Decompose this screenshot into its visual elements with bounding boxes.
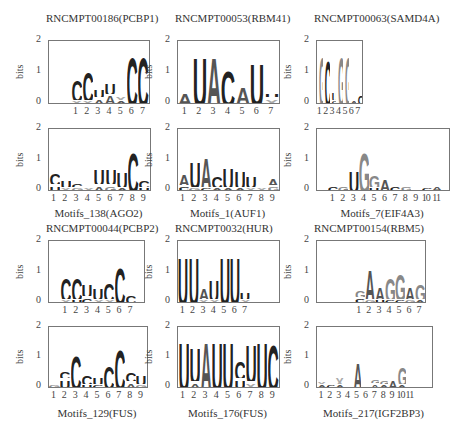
- position-stack: C: [128, 144, 139, 190]
- x-tick-label: 2: [187, 304, 197, 315]
- position-stack: C: [356, 94, 362, 103]
- letter-c: C: [234, 357, 245, 378]
- letter-g: G: [401, 185, 411, 190]
- position-stack: G: [343, 47, 349, 103]
- letter-x: X: [245, 187, 256, 190]
- position-stack: AU: [234, 166, 245, 190]
- position-stack: U: [250, 53, 264, 103]
- x-tick-labels: 1234567891011: [316, 389, 414, 400]
- position-stack: C: [115, 259, 126, 302]
- letter-u: U: [136, 372, 147, 384]
- letter-a: A: [365, 262, 375, 299]
- x-tick-label: 2: [59, 389, 70, 400]
- letter-g: G: [370, 377, 379, 383]
- x-tick-label: 5: [394, 304, 404, 315]
- letter-c: C: [82, 296, 93, 302]
- panel-title: RNCMPT00063(SAMD4A): [314, 12, 439, 24]
- position-stack: AU: [104, 81, 115, 103]
- y-axis-label: bits: [14, 152, 25, 166]
- letter-u: U: [250, 53, 264, 103]
- x-tick-label: 2: [325, 389, 334, 400]
- logo-plot-area: AXCAXCACAGAGAAGX: [316, 326, 433, 388]
- position-stack: XC: [71, 75, 82, 103]
- y-tick-label: 0: [36, 294, 41, 305]
- y-tick-label: 2: [304, 121, 309, 132]
- x-tick-label: 8: [127, 192, 138, 203]
- position-stack: A: [178, 91, 192, 103]
- panel-title: RNCMPT00186(PCBP1): [46, 12, 158, 24]
- position-stack: C: [390, 184, 400, 190]
- letter-u: U: [189, 156, 200, 187]
- y-axis-label: bits: [143, 350, 154, 364]
- letter-a: A: [375, 284, 385, 299]
- letter-x: X: [265, 97, 279, 103]
- position-stack: XU: [60, 178, 71, 190]
- letter-u: U: [178, 247, 188, 302]
- position-stack: XC: [104, 278, 115, 302]
- x-tick-label: 5: [222, 389, 233, 400]
- position-stack: G: [359, 144, 369, 190]
- letter-g: G: [355, 288, 365, 297]
- position-stack: CA: [178, 173, 189, 190]
- position-stack: UC: [49, 172, 60, 190]
- x-tick-label: 9: [138, 192, 149, 203]
- letter-a: A: [415, 299, 425, 302]
- x-tick-label: 1: [354, 304, 364, 315]
- position-stack: UG: [369, 172, 379, 190]
- x-tick-labels: 1234567891011: [327, 192, 442, 203]
- position-stack: UC: [71, 272, 82, 302]
- panel-title: RNCMPT00154(RBM5): [314, 222, 424, 234]
- x-tick-label: 11: [405, 389, 414, 400]
- x-tick-label: 6: [229, 304, 239, 315]
- letter-g: G: [338, 184, 348, 190]
- x-tick-label: 1: [327, 192, 337, 203]
- x-tick-label: 1: [59, 304, 70, 315]
- position-stack: XU: [209, 275, 219, 302]
- position-stack: U: [192, 47, 206, 103]
- letter-c: C: [355, 297, 365, 302]
- letter-x: X: [93, 299, 104, 302]
- x-tick-label: 6: [379, 192, 389, 203]
- y-tick-label: 1: [304, 349, 309, 360]
- y-tick-label: 2: [36, 121, 41, 132]
- letter-u: U: [189, 339, 200, 381]
- letter-u: U: [245, 175, 256, 187]
- y-axis-label: bits: [143, 65, 154, 79]
- letter-c: C: [344, 386, 353, 388]
- y-tick-label: 2: [36, 33, 41, 44]
- x-tick-labels: 1234567: [316, 105, 361, 116]
- position-stack: UC: [139, 178, 150, 190]
- x-tick-label: 3: [70, 389, 81, 400]
- letter-u: U: [230, 247, 240, 302]
- logo-plot-area: AUACAUXU: [177, 40, 280, 104]
- position-stack: G: [401, 185, 411, 190]
- y-tick-label: 1: [165, 349, 170, 360]
- letter-x: X: [116, 94, 127, 100]
- y-axis-label: bits: [14, 350, 25, 364]
- x-tick-label: 5: [368, 192, 378, 203]
- letter-g: G: [189, 187, 200, 190]
- letter-c: C: [60, 369, 71, 378]
- y-axis-label: bits: [282, 152, 293, 166]
- x-tick-label: 2: [364, 304, 374, 315]
- x-tick-label: 7: [355, 105, 361, 116]
- x-tick-label: 7: [115, 192, 126, 203]
- letter-u: U: [220, 247, 230, 302]
- y-tick-label: 2: [304, 319, 309, 330]
- letter-x: X: [199, 299, 209, 302]
- x-tick-label: 2: [188, 192, 199, 203]
- letter-u: U: [105, 166, 116, 184]
- letter-a: A: [397, 384, 406, 387]
- letter-c: C: [126, 293, 137, 302]
- x-tick-label: 3: [81, 304, 92, 315]
- x-tick-label: 2: [337, 192, 347, 203]
- logo-plot-area: GCCUGGAC: [316, 40, 363, 104]
- letter-u: U: [60, 378, 71, 387]
- x-tick-label: 4: [81, 389, 92, 400]
- x-tick-label: 6: [404, 304, 414, 315]
- y-tick-label: 0: [36, 182, 41, 193]
- position-stack: UA: [375, 284, 385, 302]
- x-tick-label: 1: [177, 304, 187, 315]
- position-stack: X: [83, 187, 94, 190]
- letter-u: U: [192, 47, 206, 103]
